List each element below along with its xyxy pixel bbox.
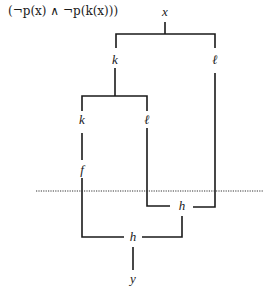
edge-h-upper-to-h-lower <box>142 216 182 237</box>
node-k-upper: k <box>112 52 118 67</box>
node-h-upper: h <box>179 198 186 213</box>
node-h-lower: h <box>130 229 137 244</box>
edge-f-to-h-lower <box>82 178 124 237</box>
node-y: y <box>128 271 136 286</box>
node-l-upper: ℓ <box>212 52 218 67</box>
node-x: x <box>161 4 168 19</box>
edge-l-lower-to-h-upper <box>147 128 170 206</box>
edge-l-upper-to-h-upper <box>193 73 215 207</box>
node-k-lower: k <box>79 112 85 127</box>
node-f: f <box>80 162 86 177</box>
edge-k-split <box>82 96 147 111</box>
edge-x-split <box>116 34 215 48</box>
node-l-lower: ℓ <box>144 112 150 127</box>
composition-diagram: x k ℓ k ℓ f h h y <box>0 0 268 295</box>
